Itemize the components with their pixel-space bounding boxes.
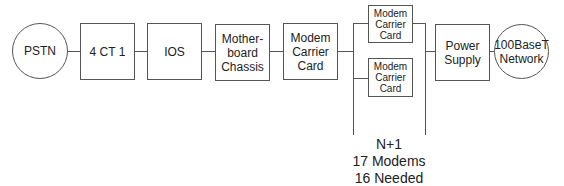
modem-carrier-card-bottom-node: Modem Carrier Card (368, 58, 413, 97)
connector-bus-top-card (353, 23, 368, 24)
motherboard-label: Mother- board Chassis (221, 32, 264, 74)
redundancy-note-line3: 16 Needed (339, 170, 439, 186)
modem-carrier-main-label: Modem Carrier Card (290, 31, 330, 73)
connector-pstn-ct1 (68, 51, 80, 52)
modem-carrier-top-label: Modem Carrier Card (374, 8, 407, 41)
modem-carrier-bottom-label: Modem Carrier Card (374, 61, 407, 94)
network-label: 100BaseT Network (494, 38, 549, 66)
connector-top-card-bus (412, 23, 425, 24)
ios-label: IOS (164, 45, 185, 59)
redundancy-note: N+1 17 Modems 16 Needed (339, 136, 439, 186)
connector-ios-motherboard (202, 51, 215, 52)
connector-bus-powersupply (425, 51, 435, 52)
pstn-label: PSTN (24, 44, 56, 58)
redundancy-note-line2: 17 Modems (339, 153, 439, 170)
modem-carrier-card-main-node: Modem Carrier Card (283, 23, 338, 80)
ct1-label: 4 CT 1 (90, 45, 126, 59)
right-redundancy-bus (425, 23, 426, 135)
pstn-node: PSTN (12, 23, 68, 79)
modem-carrier-card-top-node: Modem Carrier Card (368, 5, 413, 43)
ct1-node: 4 CT 1 (80, 23, 135, 80)
left-redundancy-bus (353, 23, 354, 135)
motherboard-chassis-node: Mother- board Chassis (215, 24, 270, 81)
connector-ct1-ios (134, 51, 147, 52)
network-node: 100BaseT Network (494, 24, 549, 79)
connector-bus-bottom-card (353, 78, 368, 79)
redundancy-note-line1: N+1 (339, 136, 439, 153)
power-supply-node: Power Supply (435, 24, 490, 81)
ios-node: IOS (147, 23, 202, 80)
connector-motherboard-modemcard (270, 51, 283, 52)
connector-modemcard-bus (338, 51, 353, 52)
power-supply-label: Power Supply (444, 39, 481, 67)
